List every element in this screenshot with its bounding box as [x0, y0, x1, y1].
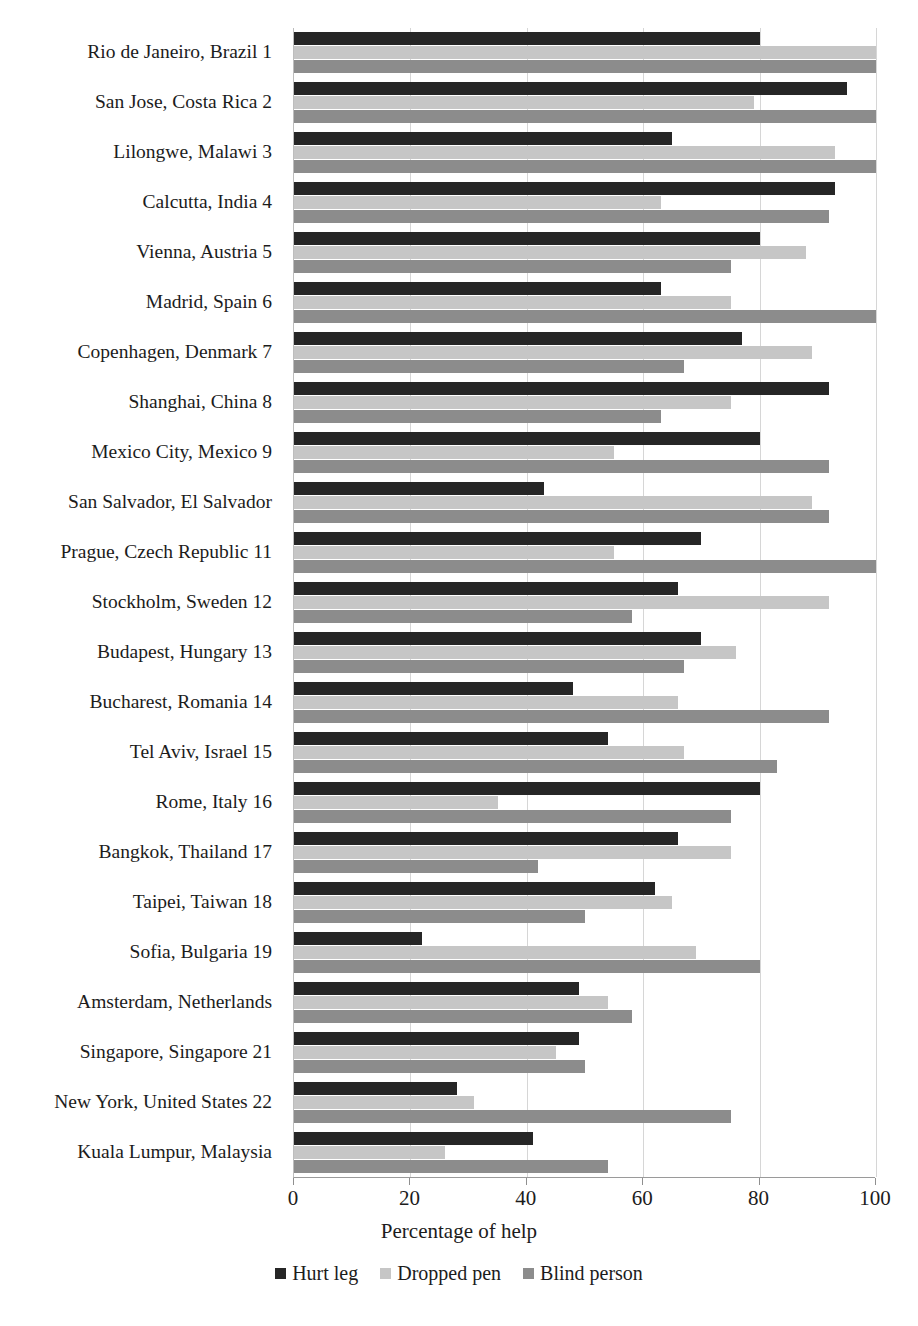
bar-2 [294, 960, 760, 973]
bar-group [294, 332, 875, 374]
bar-1 [294, 446, 614, 459]
category-label: Budapest, Hungary 13 [0, 642, 272, 662]
bar-2 [294, 310, 876, 323]
category-label: Mexico City, Mexico 9 [0, 442, 272, 462]
bar-1 [294, 1146, 445, 1159]
bar-2 [294, 510, 829, 523]
bar-0 [294, 982, 579, 995]
bar-0 [294, 832, 678, 845]
category-label: Copenhagen, Denmark 7 [0, 342, 272, 362]
bar-1 [294, 46, 876, 59]
category-label: Rome, Italy 16 [0, 792, 272, 812]
bar-1 [294, 96, 754, 109]
category-label: San Salvador, El Salvador [0, 492, 272, 512]
category-label: Amsterdam, Netherlands [0, 992, 272, 1012]
bar-group [294, 132, 875, 174]
bar-1 [294, 546, 614, 559]
bar-0 [294, 132, 672, 145]
category-label: Madrid, Spain 6 [0, 292, 272, 312]
legend-item[interactable]: Dropped pen [380, 1262, 501, 1285]
bar-0 [294, 782, 760, 795]
bar-1 [294, 596, 829, 609]
bar-2 [294, 910, 585, 923]
bar-group [294, 282, 875, 324]
bar-group [294, 882, 875, 924]
bar-group [294, 832, 875, 874]
bar-2 [294, 860, 538, 873]
legend-swatch-icon [275, 1268, 286, 1279]
bar-0 [294, 332, 742, 345]
bar-group [294, 482, 875, 524]
bar-2 [294, 660, 684, 673]
bar-group [294, 982, 875, 1024]
bar-group [294, 1032, 875, 1074]
bar-2 [294, 410, 661, 423]
bar-0 [294, 282, 661, 295]
x-tick-80 [759, 1178, 760, 1185]
bar-0 [294, 32, 760, 45]
x-tick-60 [642, 1178, 643, 1185]
bar-0 [294, 432, 760, 445]
bar-2 [294, 710, 829, 723]
bar-2 [294, 1160, 608, 1173]
x-tick-label-80: 80 [729, 1186, 789, 1211]
bar-0 [294, 932, 422, 945]
bar-2 [294, 810, 731, 823]
bar-1 [294, 1096, 474, 1109]
bar-0 [294, 632, 701, 645]
bar-group [294, 632, 875, 674]
bar-2 [294, 760, 777, 773]
bar-0 [294, 582, 678, 595]
bar-2 [294, 160, 876, 173]
legend-swatch-icon [523, 1268, 534, 1279]
category-axis-labels: Rio de Janeiro, Brazil 1San Jose, Costa … [0, 28, 272, 1178]
category-label: Stockholm, Sweden 12 [0, 592, 272, 612]
x-tick-label-40: 40 [496, 1186, 556, 1211]
legend-item[interactable]: Hurt leg [275, 1262, 358, 1285]
bar-0 [294, 232, 760, 245]
x-tick-label-20: 20 [379, 1186, 439, 1211]
category-label: Lilongwe, Malawi 3 [0, 142, 272, 162]
legend-item[interactable]: Blind person [523, 1262, 643, 1285]
category-label: Singapore, Singapore 21 [0, 1042, 272, 1062]
bar-2 [294, 210, 829, 223]
bar-group [294, 232, 875, 274]
plot-area [293, 28, 875, 1178]
bar-1 [294, 946, 696, 959]
bar-2 [294, 460, 829, 473]
bar-group [294, 1082, 875, 1124]
bar-1 [294, 1046, 556, 1059]
bar-1 [294, 796, 498, 809]
legend-swatch-icon [380, 1268, 391, 1279]
bar-group [294, 532, 875, 574]
bar-0 [294, 732, 608, 745]
bar-2 [294, 610, 632, 623]
bar-0 [294, 482, 544, 495]
bar-group [294, 682, 875, 724]
chart-legend: Hurt legDropped penBlind person [0, 1262, 918, 1285]
bar-group [294, 582, 875, 624]
bar-2 [294, 1010, 632, 1023]
bar-1 [294, 396, 731, 409]
category-label: Bangkok, Thailand 17 [0, 842, 272, 862]
bar-2 [294, 110, 876, 123]
category-label: San Jose, Costa Rica 2 [0, 92, 272, 112]
category-label: Kuala Lumpur, Malaysia [0, 1142, 272, 1162]
bar-1 [294, 846, 731, 859]
bar-1 [294, 896, 672, 909]
bar-group [294, 732, 875, 774]
category-label: New York, United States 22 [0, 1092, 272, 1112]
bar-1 [294, 196, 661, 209]
bar-0 [294, 882, 655, 895]
x-tick-label-0: 0 [263, 1186, 323, 1211]
bar-1 [294, 996, 608, 1009]
x-tick-100 [875, 1178, 876, 1185]
bar-1 [294, 496, 812, 509]
bar-0 [294, 1082, 457, 1095]
category-label: Rio de Janeiro, Brazil 1 [0, 42, 272, 62]
x-tick-40 [526, 1178, 527, 1185]
legend-label: Blind person [540, 1262, 643, 1285]
x-tick-0 [293, 1178, 294, 1185]
x-tick-label-60: 60 [612, 1186, 672, 1211]
x-axis-title: Percentage of help [0, 1219, 918, 1244]
